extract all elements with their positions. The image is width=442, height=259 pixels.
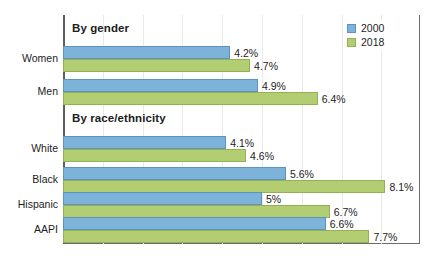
bar-row: 4.6% [63,149,420,162]
category-label-black: Black [0,173,58,185]
bar-row: 5.6% [63,167,420,180]
bar-value-label: 7.7% [369,231,397,243]
category-label-aapi: AAPI [0,223,58,235]
bar-black-2000 [63,167,286,180]
bar-aapi-2000 [63,217,326,230]
bar-row: 7.7% [63,230,420,243]
bar-row: 4.9% [63,79,420,92]
bar-men-2018 [63,92,318,105]
bar-women-2018 [63,59,250,72]
category-label-women: Women [0,52,58,64]
bar-row: 6.4% [63,92,420,105]
bar-row: 4.7% [63,59,420,72]
bar-aapi-2018 [63,230,369,243]
chart-legend: 20002018 [344,20,387,50]
bar-row: 4.1% [63,136,420,149]
category-label-men: Men [0,85,58,97]
legend-item-2000[interactable]: 2000 [347,22,384,34]
bar-value-label: 6.4% [318,93,346,105]
grouped-bar-chart: By genderBy race/ethnicity WomenMenWhite… [0,0,442,259]
legend-label: 2018 [361,36,384,48]
bar-white-2018 [63,149,246,162]
bar-hispanic-2000 [63,192,262,205]
bar-value-label: 4.7% [250,60,278,72]
legend-swatch-2018 [347,38,356,47]
bar-white-2000 [63,136,226,149]
bar-men-2000 [63,79,258,92]
bar-value-label: 4.2% [230,47,258,59]
bar-value-label: 5% [262,193,281,205]
bar-women-2000 [63,46,230,59]
bar-value-label: 4.1% [226,137,254,149]
bar-value-label: 4.9% [258,80,286,92]
legend-item-2018[interactable]: 2018 [347,36,384,48]
bar-value-label: 4.6% [246,150,274,162]
bar-value-label: 6.6% [326,218,354,230]
bar-value-label: 6.7% [330,206,358,218]
legend-label: 2000 [361,22,384,34]
bar-value-label: 5.6% [286,168,314,180]
category-label-hispanic: Hispanic [0,198,58,210]
category-label-white: White [0,142,58,154]
legend-swatch-2000 [347,24,356,33]
bar-value-label: 8.1% [385,181,413,193]
bar-row: 5% [63,192,420,205]
bar-row: 6.6% [63,217,420,230]
